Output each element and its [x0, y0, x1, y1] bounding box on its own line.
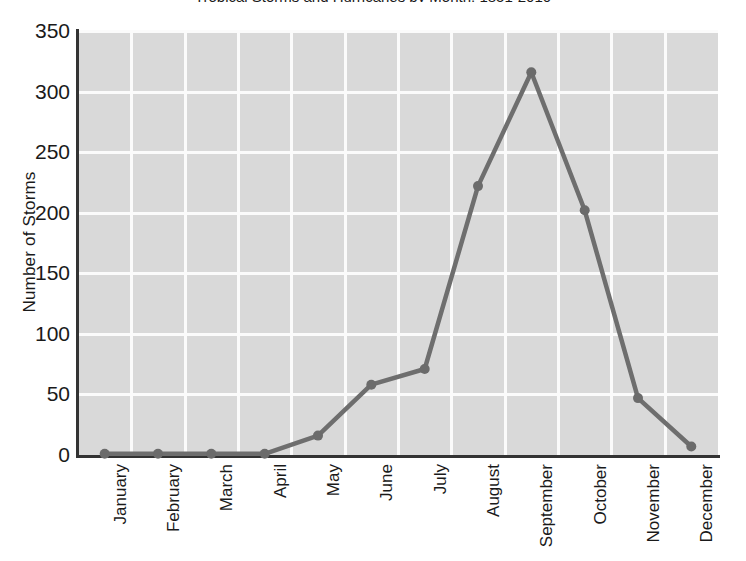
x-tick-label: September — [538, 464, 555, 561]
x-tick-label: April — [272, 464, 289, 561]
x-tick-label: May — [325, 464, 342, 561]
x-tick-label: October — [592, 464, 609, 561]
x-tick-label: February — [165, 464, 182, 561]
x-axis-tick-labels: JanuaryFebruaryMarchAprilMayJuneJulyAugu… — [0, 0, 746, 561]
x-tick-label: January — [112, 464, 129, 561]
chart-container: Tropical Storms and Hurricanes by Month,… — [0, 0, 746, 561]
x-tick-label: August — [485, 464, 502, 561]
x-tick-label: November — [645, 464, 662, 561]
x-tick-label: June — [378, 464, 395, 561]
x-tick-label: December — [698, 464, 715, 561]
x-tick-label: March — [218, 464, 235, 561]
x-tick-label: July — [432, 464, 449, 561]
